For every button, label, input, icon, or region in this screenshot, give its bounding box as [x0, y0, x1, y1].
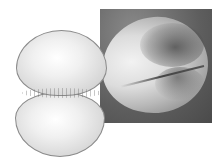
- cell-lobe-bottom: [15, 92, 105, 157]
- micrograph-shadow-upper: [140, 23, 204, 67]
- cell-lobe-top: [16, 30, 107, 96]
- micrograph-panel: [100, 9, 212, 123]
- cleavage-furrow-wrinkles: [22, 88, 102, 98]
